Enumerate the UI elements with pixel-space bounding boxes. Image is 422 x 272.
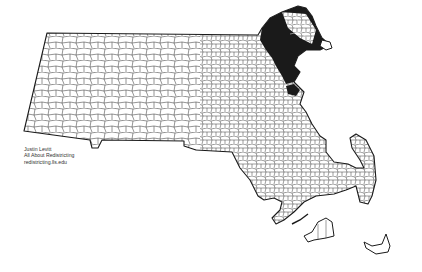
credit-project: All About Redistricting	[24, 152, 74, 158]
marthas-vineyard	[304, 218, 334, 242]
map-credit: Justin Levitt All About Redistricting re…	[24, 146, 74, 165]
mainland	[0, 0, 422, 272]
massachusetts-map	[0, 0, 422, 272]
elizabeth-islands	[292, 214, 308, 224]
nantucket	[364, 234, 390, 254]
credit-site: redistricting.lls.edu	[24, 159, 74, 165]
